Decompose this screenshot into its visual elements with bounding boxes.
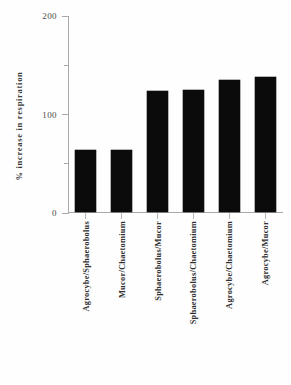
x-label-slot: Agrocybe/Chaetomium [222,221,236,381]
x-label-slot: Agrocybe/Sphaerobolus [79,221,93,381]
bar [255,77,276,212]
y-tick-200: 200 [62,16,69,17]
x-axis-label: Sphaerobolus/Chaetomium [189,221,198,324]
bar [147,91,168,212]
y-axis-title: % increase in respiration [14,71,24,180]
x-axis-label: Agrocybe/Mucor [261,221,270,285]
bar [111,150,132,212]
y-tick-150 [64,65,69,66]
bar [183,90,204,212]
x-axis-label: Mucor/Chaetomium [117,221,126,298]
bar-chart-figure: % increase in respiration 0100200 Agrocy… [0,0,291,385]
y-tick-100: 100 [62,114,69,115]
y-axis-title-container: % increase in respiration [8,36,30,216]
x-label-slot: Agrocybe/Mucor [258,221,272,381]
x-tick [229,213,230,219]
x-axis-label: Agrocybe/Chaetomium [225,221,234,309]
x-axis-label: Sphaerobolus/Mucor [153,221,162,301]
x-axis-category-labels: Agrocybe/SphaerobolusMucor/ChaetomiumSph… [68,221,283,381]
bar [75,150,96,212]
x-tick [265,213,266,219]
y-tick-label-100: 100 [42,110,57,120]
y-tick-50 [64,163,69,164]
x-label-slot: Sphaerobolus/Mucor [151,221,165,381]
x-tick [157,213,158,219]
x-tick [121,213,122,219]
y-tick-0: 0 [62,213,69,214]
x-label-slot: Mucor/Chaetomium [115,221,129,381]
bar [219,80,240,212]
plot-area: 0100200 [68,16,283,213]
x-axis-label: Agrocybe/Sphaerobolus [81,221,90,312]
x-tick [85,213,86,219]
y-tick-label-200: 200 [42,11,57,21]
x-label-slot: Sphaerobolus/Chaetomium [186,221,200,381]
y-tick-label-0: 0 [52,208,57,218]
x-tick [193,213,194,219]
x-axis-spine [68,212,283,213]
